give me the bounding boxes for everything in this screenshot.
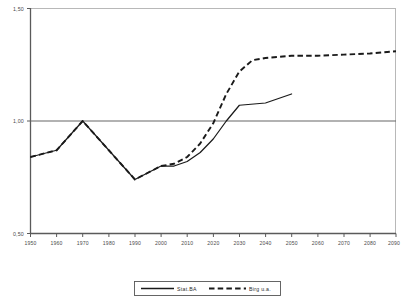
y-tick-label-050: 0,50 bbox=[13, 231, 24, 237]
x-tick-label-2040: 2040 bbox=[260, 240, 272, 246]
x-tick-label-2080: 2080 bbox=[364, 240, 376, 246]
chart-canvas: 1,50 1,00 0,50 1950 1960 1970 1980 bbox=[0, 0, 408, 305]
x-tick-label-2050: 2050 bbox=[286, 240, 298, 246]
legend: Stat.BA Birg u.a. bbox=[135, 282, 281, 296]
y-tick-label-100: 1,00 bbox=[13, 118, 24, 124]
x-tick-labels: 1950 1960 1970 1980 1990 2000 2010 2020 … bbox=[24, 240, 400, 246]
x-tick-label-2070: 2070 bbox=[338, 240, 350, 246]
x-tick-label-2060: 2060 bbox=[312, 240, 324, 246]
legend-label-birg: Birg u.a. bbox=[249, 286, 271, 292]
x-tick-label-2030: 2030 bbox=[233, 240, 245, 246]
x-tick-label-1970: 1970 bbox=[77, 240, 89, 246]
x-tick-label-1990: 1990 bbox=[129, 240, 141, 246]
x-tick-label-2090: 2090 bbox=[388, 240, 400, 246]
x-tick-label-2020: 2020 bbox=[207, 240, 219, 246]
line-chart: 1,50 1,00 0,50 1950 1960 1970 1980 bbox=[0, 0, 408, 305]
y-tick-label-150: 1,50 bbox=[13, 6, 24, 12]
legend-label-statba: Stat.BA bbox=[177, 286, 197, 292]
x-tick-label-2010: 2010 bbox=[181, 240, 193, 246]
x-tick-label-1980: 1980 bbox=[103, 240, 115, 246]
x-tick-label-2000: 2000 bbox=[155, 240, 167, 246]
x-tick-label-1960: 1960 bbox=[51, 240, 63, 246]
x-tick-label-1950: 1950 bbox=[24, 240, 36, 246]
series-line-birg bbox=[31, 51, 397, 179]
